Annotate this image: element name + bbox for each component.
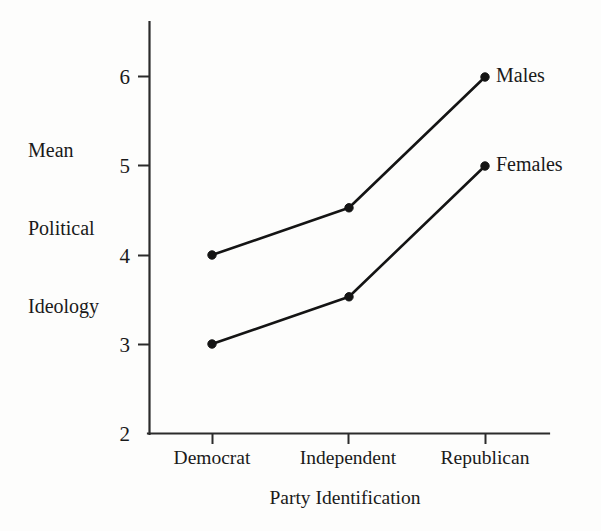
y-axis-title-line-2: Political — [28, 215, 99, 241]
y-tick-label-3: 3 — [100, 333, 130, 358]
data-point-males-democrat — [208, 251, 216, 259]
y-axis-title-line-1: Mean — [28, 137, 99, 163]
y-tick-label-5: 5 — [100, 154, 130, 179]
data-point-females-democrat — [208, 340, 216, 348]
x-tick-label-republican: Republican — [415, 446, 555, 469]
data-point-males-independent — [345, 204, 353, 212]
y-tick-label-4: 4 — [100, 244, 130, 269]
series-line-males — [212, 77, 485, 255]
x-axis-title: Party Identification — [195, 486, 495, 509]
y-tick-label-6: 6 — [100, 65, 130, 90]
x-tick-label-independent: Independent — [278, 446, 418, 469]
series-label-females: Females — [496, 153, 563, 177]
data-point-males-republican — [481, 73, 489, 81]
data-point-females-independent — [345, 293, 353, 301]
data-point-females-republican — [481, 162, 489, 170]
x-tick-label-democrat: Democrat — [142, 446, 282, 469]
series-line-females — [212, 166, 485, 344]
y-tick-label-2: 2 — [100, 422, 130, 447]
y-axis-title-line-3: Ideology — [28, 293, 99, 319]
y-axis-title: Mean Political Ideology — [28, 85, 99, 371]
series-label-males: Males — [496, 64, 545, 88]
chart-figure: 6 5 4 3 2 Mean Political Ideology Democr… — [0, 0, 601, 531]
